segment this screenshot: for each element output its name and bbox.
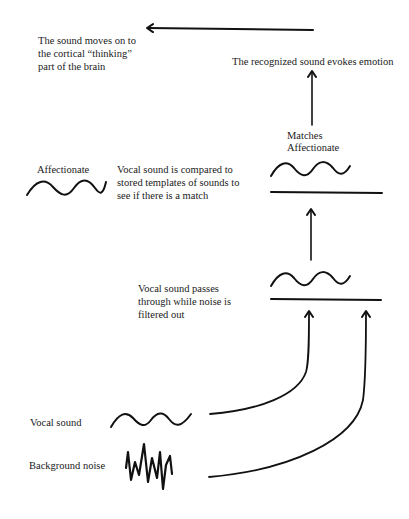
filter-label-line: through while noise is (138, 295, 231, 308)
matches-label-line: Matches (287, 130, 339, 142)
filter-label: Vocal sound passes through while noise i… (138, 282, 231, 321)
matches-label-line: Affectionate (287, 142, 339, 154)
arrow-vocal-to-filter (210, 312, 309, 414)
compare-label-line: stored templates of sounds to (117, 176, 239, 189)
diagram-canvas (0, 0, 409, 519)
cortex-label-line: The sound moves on to (38, 34, 136, 47)
emotion-label: The recognized sound evokes emotion (232, 55, 394, 68)
cortex-label-line: the cortical “thinking” (38, 47, 136, 60)
noise-wave-icon (126, 444, 172, 489)
matched-wave-icon (271, 162, 350, 176)
compare-label-line: Vocal sound is compared to (117, 163, 239, 176)
template-label: Affectionate (37, 163, 89, 176)
cortex-label-line: part of the brain (38, 60, 136, 73)
filtered-wave-icon (271, 272, 350, 286)
filter-label-line: filtered out (138, 308, 231, 321)
cortex-label: The sound moves on to the cortical “thin… (38, 34, 136, 73)
background-noise-label: Background noise (29, 459, 105, 472)
matches-label: Matches Affectionate (287, 130, 339, 154)
vocal-sound-label: Vocal sound (30, 416, 81, 429)
compare-label: Vocal sound is compared to stored templa… (117, 163, 239, 202)
filter-label-line: Vocal sound passes (138, 282, 231, 295)
match-bar (271, 192, 382, 193)
compare-label-line: see if there is a match (117, 189, 239, 202)
vocal-wave-icon (111, 413, 191, 427)
filter-bar (271, 299, 381, 300)
arrow-noise-to-filter (209, 312, 366, 477)
arrow-to-cortex (148, 28, 313, 30)
template-wave-icon (27, 181, 106, 196)
